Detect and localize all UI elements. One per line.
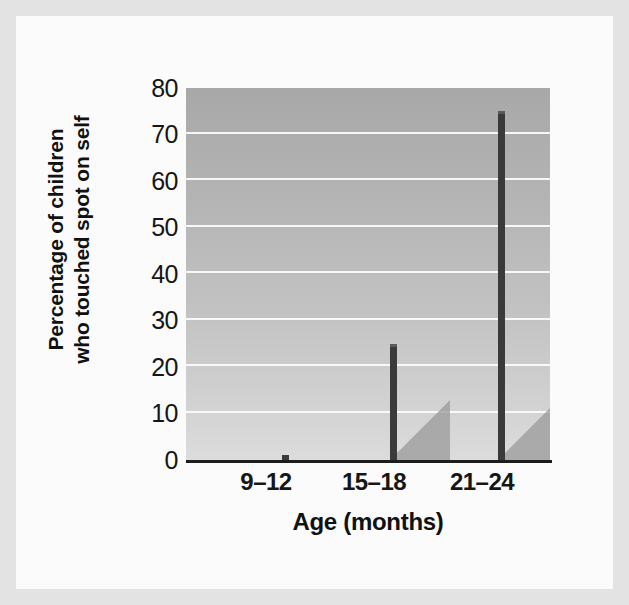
y-axis-title-line1: Percentage of children <box>43 85 69 395</box>
figure-frame: 80 70 60 50 40 30 20 10 0 9–12 15–18 21–… <box>0 0 629 605</box>
x-tick-9-12: 9–12 <box>240 468 291 496</box>
bar-15-18-side <box>390 347 397 460</box>
x-tick-15-18: 15–18 <box>342 468 406 496</box>
y-axis-title-line2: who touched spot on self <box>69 85 95 395</box>
x-axis-line <box>186 460 552 463</box>
bar-shadow-15-18 <box>390 400 450 460</box>
x-tick-21-24: 21–24 <box>450 468 514 496</box>
y-tick-10: 10 <box>126 401 178 426</box>
bar-shadow-21-24 <box>498 408 550 460</box>
bar-21-24-side <box>498 114 505 460</box>
y-tick-60: 60 <box>126 169 178 194</box>
y-tick-0: 0 <box>126 448 178 473</box>
bar-21-24[interactable] <box>458 111 498 460</box>
y-tick-80: 80 <box>126 76 178 101</box>
figure-inner-panel: 80 70 60 50 40 30 20 10 0 9–12 15–18 21–… <box>16 16 613 589</box>
y-axis-ticks: 80 70 60 50 40 30 20 10 0 <box>126 16 178 589</box>
x-axis-title: Age (months) <box>186 508 550 536</box>
y-axis-title: Percentage of children who touched spot … <box>43 85 94 395</box>
bar-chart: 80 70 60 50 40 30 20 10 0 9–12 15–18 21–… <box>16 16 613 589</box>
plot-area <box>186 88 550 460</box>
bar-15-18[interactable] <box>349 344 390 460</box>
y-tick-70: 70 <box>126 122 178 147</box>
y-tick-20: 20 <box>126 355 178 380</box>
y-tick-40: 40 <box>126 262 178 287</box>
x-axis-ticks: 9–12 15–18 21–24 <box>186 468 550 502</box>
y-tick-50: 50 <box>126 215 178 240</box>
y-tick-30: 30 <box>126 308 178 333</box>
